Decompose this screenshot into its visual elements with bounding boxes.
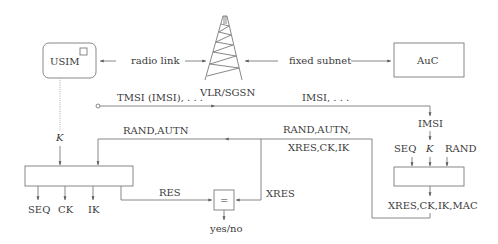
usim-output-ck: CK — [58, 204, 74, 215]
auc-input-k: K — [425, 143, 434, 154]
usim-output-seq: SEQ — [28, 204, 50, 215]
auc-input-seq: SEQ — [394, 143, 416, 154]
auc-imsi-label: IMSI — [418, 118, 443, 129]
res-label: RES — [159, 187, 181, 198]
compare-symbol: = — [220, 195, 228, 206]
usim-key-label: K — [55, 132, 64, 143]
usim-function-box — [25, 166, 133, 186]
usim-node: USIM — [43, 43, 96, 78]
vlr-sgsn-label: VLR/SGSN — [199, 87, 255, 98]
tower-icon — [205, 16, 242, 80]
fixed-subnet-link: fixed subnet — [245, 55, 391, 66]
auth-vector-label-2: XRES,CK,IK — [288, 142, 350, 153]
usim-label: USIM — [50, 56, 79, 67]
auth-vector-label-1: RAND,AUTN, — [283, 124, 351, 135]
result-label: yes/no — [209, 223, 243, 234]
authentication-diagram: USIM radio link VLR/SGSN fixed subnet Au… — [0, 0, 498, 244]
auc-output-label: XRES,CK,IK,MAC — [388, 200, 478, 211]
auc-node: AuC — [394, 43, 464, 77]
imsi-forward-label: IMSI, . . . — [302, 92, 349, 103]
fixed-subnet-label: fixed subnet — [289, 55, 351, 66]
xres-label: XRES — [266, 188, 295, 199]
radio-link: radio link — [100, 55, 206, 66]
xres-line — [236, 139, 261, 200]
rand-autn-label: RAND,AUTN — [123, 125, 189, 136]
tmsi-label: TMSI (IMSI), . . . — [117, 92, 203, 103]
radio-link-label: radio link — [131, 55, 180, 66]
auc-label: AuC — [416, 55, 439, 66]
auc-input-rand: RAND — [445, 143, 477, 154]
sim-chip-icon — [80, 48, 87, 55]
auc-function-box — [394, 167, 464, 186]
usim-output-ik: IK — [88, 204, 100, 215]
tmsi-message: TMSI (IMSI), . . . IMSI, . . . — [96, 92, 430, 116]
